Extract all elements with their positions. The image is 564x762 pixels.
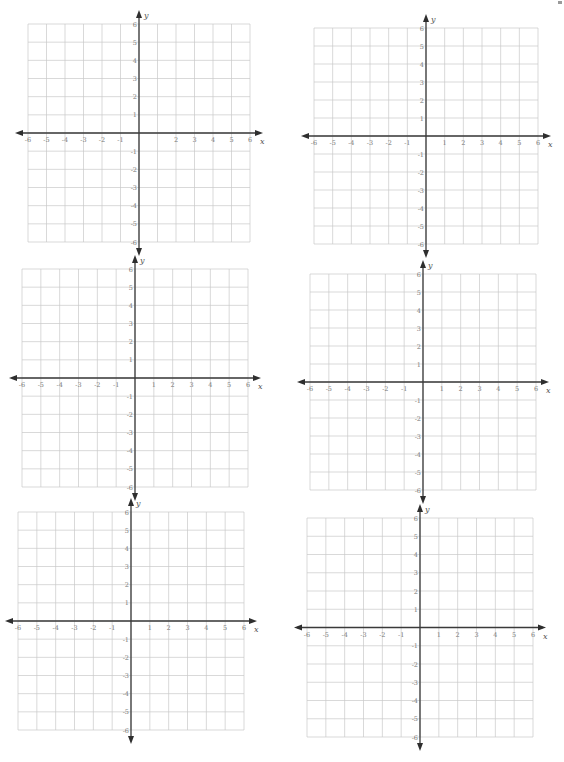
x-tick-label: -6 (19, 381, 25, 389)
y-tick-label: 1 (417, 361, 421, 369)
y-tick-label: -6 (123, 727, 129, 735)
y-axis-up-arrow-icon (136, 10, 142, 18)
x-tick-label: -4 (344, 385, 350, 393)
x-axis-name: x (260, 137, 265, 146)
x-tick-label: 2 (461, 139, 465, 147)
y-tick-label: -3 (412, 679, 418, 687)
y-axis-name: y (135, 499, 141, 508)
y-axis-up-arrow-icon (420, 260, 426, 268)
x-tick-label: -2 (382, 385, 388, 393)
y-tick-label: -3 (418, 187, 424, 195)
y-tick-label: 2 (417, 343, 421, 351)
y-axis-down-arrow-icon (128, 736, 134, 744)
x-tick-label: -6 (25, 136, 31, 144)
x-tick-label: 1 (152, 381, 156, 389)
y-tick-label: -6 (127, 484, 133, 492)
x-axis-right-arrow-icon (249, 618, 257, 624)
y-tick-label: -6 (131, 239, 137, 247)
x-tick-label: 2 (167, 624, 171, 632)
y-tick-label: -1 (127, 393, 133, 401)
x-tick-label: 4 (496, 385, 500, 393)
y-axis-down-arrow-icon (417, 743, 423, 751)
y-tick-label: -5 (123, 708, 129, 716)
x-tick-label: 4 (204, 624, 208, 632)
x-axis-left-arrow-icon (301, 133, 309, 139)
x-tick-label: 1 (437, 631, 441, 639)
y-tick-label: -3 (131, 184, 137, 192)
y-tick-label: 6 (125, 509, 129, 517)
x-tick-label: -2 (385, 139, 391, 147)
y-tick-label: 4 (414, 551, 418, 559)
x-tick-label: -4 (341, 631, 347, 639)
x-tick-label: -1 (109, 624, 115, 632)
plane-svg: -6-5-4-3-2-1123456654321-1-2-3-4-5-6xy (296, 260, 550, 504)
x-axis-right-arrow-icon (538, 625, 546, 631)
y-axis-name: y (424, 505, 430, 514)
x-tick-label: -4 (52, 624, 58, 632)
x-tick-label: 5 (517, 139, 521, 147)
y-tick-label: -6 (418, 241, 424, 249)
x-axis-name: x (254, 625, 259, 634)
y-tick-label: -4 (123, 690, 129, 698)
y-tick-label: 1 (129, 356, 133, 364)
axes (297, 260, 549, 504)
y-tick-label: 3 (414, 569, 418, 577)
x-tick-label: 4 (493, 631, 497, 639)
coordinate-plane-bottom-right: -6-5-4-3-2-1123456654321-1-2-3-4-5-6xy (293, 504, 547, 751)
x-tick-label: 3 (189, 381, 193, 389)
y-tick-label: 3 (129, 320, 133, 328)
y-tick-label: -4 (131, 202, 137, 210)
x-tick-label: 3 (480, 139, 484, 147)
axes (5, 498, 257, 744)
y-tick-label: -5 (127, 465, 133, 473)
y-axis-up-arrow-icon (132, 255, 138, 263)
y-axis-up-arrow-icon (417, 504, 423, 512)
x-axis-left-arrow-icon (5, 618, 13, 624)
x-tick-label: -3 (75, 381, 81, 389)
x-axis-left-arrow-icon (297, 379, 305, 385)
y-tick-label: -5 (418, 223, 424, 231)
x-tick-label: -1 (117, 136, 123, 144)
x-tick-label: -6 (304, 631, 310, 639)
y-tick-label: 5 (125, 527, 129, 535)
y-tick-label: 6 (414, 515, 418, 523)
scan-mark (558, 1, 562, 4)
x-tick-label: -3 (71, 624, 77, 632)
x-tick-label: 3 (185, 624, 189, 632)
y-tick-label: 1 (420, 115, 424, 123)
plane-svg: -6-5-4-3-2-1123456654321-1-2-3-4-5-6xy (8, 255, 262, 501)
y-tick-label: -1 (418, 151, 424, 159)
y-tick-label: 4 (133, 57, 137, 65)
x-tick-label: 6 (534, 385, 538, 393)
y-tick-label: -3 (127, 429, 133, 437)
x-axis-name: x (546, 386, 551, 395)
x-tick-label: 2 (459, 385, 463, 393)
axes (294, 504, 546, 751)
plane-svg: -6-5-4-3-2-123456654321-1-2-3-4-5-6xy (14, 10, 264, 256)
x-tick-label: 5 (515, 385, 519, 393)
plane-svg: -6-5-4-3-2-1123456654321-1-2-3-4-5-6xy (293, 504, 547, 751)
plane-svg: -6-5-4-3-2-1123456654321-1-2-3-4-5-6xy (300, 14, 552, 258)
x-tick-label: -5 (38, 381, 44, 389)
y-tick-label: 2 (129, 338, 133, 346)
x-tick-label: -6 (15, 624, 21, 632)
x-tick-label: 1 (443, 139, 447, 147)
x-tick-label: -3 (360, 631, 366, 639)
x-tick-label: 1 (148, 624, 152, 632)
y-tick-label: 4 (129, 302, 133, 310)
x-tick-label: -5 (329, 139, 335, 147)
x-tick-label: -1 (404, 139, 410, 147)
y-tick-label: 2 (420, 97, 424, 105)
y-tick-label: 3 (417, 325, 421, 333)
x-axis-name: x (258, 382, 263, 391)
y-tick-label: -4 (418, 205, 424, 213)
y-tick-label: 1 (414, 606, 418, 614)
x-tick-label: -4 (348, 139, 354, 147)
x-tick-label: -2 (99, 136, 105, 144)
x-tick-label: -5 (326, 385, 332, 393)
y-tick-label: 1 (133, 111, 137, 119)
y-tick-label: -2 (412, 661, 418, 669)
x-tick-label: -3 (367, 139, 373, 147)
y-tick-label: -6 (415, 487, 421, 495)
y-tick-label: 5 (133, 39, 137, 47)
